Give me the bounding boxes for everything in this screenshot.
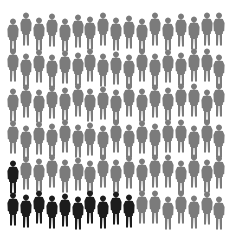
- person-icon: [212, 196, 226, 230]
- person-icon: [6, 120, 20, 154]
- person-icon: [135, 88, 149, 122]
- person-icon: [200, 191, 214, 225]
- person-icon-highlighted: [96, 195, 110, 229]
- person-icon: [83, 48, 97, 82]
- person-icon: [45, 54, 59, 88]
- person-icon: [200, 48, 214, 82]
- person-icon: [109, 159, 123, 193]
- person-icon: [32, 89, 46, 123]
- person-icon: [58, 87, 72, 121]
- person-icon: [122, 124, 136, 158]
- person-icon: [71, 124, 85, 158]
- person-icon: [45, 85, 59, 119]
- person-icon: [6, 48, 20, 82]
- person-icon: [6, 88, 20, 122]
- person-icon: [161, 196, 175, 230]
- person-icon: [109, 51, 123, 85]
- person-icon: [19, 125, 33, 159]
- person-icon: [135, 48, 149, 82]
- person-icon: [83, 16, 97, 50]
- person-icon: [135, 120, 149, 154]
- person-icon: [32, 158, 46, 192]
- person-icon: [58, 159, 72, 193]
- person-icon: [58, 119, 72, 153]
- person-icon: [19, 156, 33, 190]
- person-icon: [109, 119, 123, 153]
- person-icon-highlighted: [6, 192, 20, 226]
- person-icon: [212, 83, 226, 117]
- person-icon: [45, 154, 59, 188]
- person-icon: [187, 154, 201, 188]
- person-icon: [19, 84, 33, 118]
- person-icon: [71, 83, 85, 117]
- person-icon: [187, 195, 201, 229]
- person-icon: [71, 157, 85, 191]
- person-icon: [161, 49, 175, 83]
- person-icon: [212, 124, 226, 158]
- person-icon: [96, 12, 110, 46]
- person-icon: [148, 12, 162, 46]
- person-icon-highlighted: [122, 194, 136, 228]
- person-icon: [212, 155, 226, 189]
- person-icon: [174, 52, 188, 86]
- person-icon: [148, 190, 162, 224]
- person-icon: [187, 83, 201, 117]
- person-icon: [122, 155, 136, 189]
- person-icon-highlighted: [45, 195, 59, 229]
- person-icon: [58, 18, 72, 52]
- person-icon: [200, 12, 214, 46]
- person-icon: [174, 13, 188, 47]
- person-icon: [161, 87, 175, 121]
- person-icon-highlighted: [109, 191, 123, 225]
- person-icon: [161, 119, 175, 153]
- person-icon: [96, 154, 110, 188]
- person-icon: [187, 16, 201, 50]
- person-icon: [122, 15, 136, 49]
- person-icon-highlighted: [32, 190, 46, 224]
- person-icon: [19, 12, 33, 46]
- person-icon: [212, 12, 226, 46]
- person-icon: [45, 13, 59, 47]
- person-icon: [174, 83, 188, 117]
- person-icon: [200, 159, 214, 193]
- person-icon: [19, 53, 33, 87]
- person-icon: [96, 86, 110, 120]
- person-icon: [148, 123, 162, 157]
- person-icon: [32, 121, 46, 155]
- person-icon: [71, 52, 85, 86]
- icon-array-chart: [0, 0, 234, 242]
- person-icon: [148, 154, 162, 188]
- person-icon: [174, 119, 188, 153]
- person-icon: [161, 154, 175, 188]
- person-icon: [32, 49, 46, 83]
- person-icon-highlighted: [71, 196, 85, 230]
- person-icon-highlighted: [6, 160, 20, 194]
- person-icon: [45, 123, 59, 157]
- person-icon: [148, 84, 162, 118]
- person-icon: [96, 53, 110, 87]
- person-icon-highlighted: [83, 190, 97, 224]
- person-icon-highlighted: [58, 193, 72, 227]
- person-icon: [71, 14, 85, 48]
- person-icon-highlighted: [19, 194, 33, 228]
- person-icon: [32, 17, 46, 51]
- person-icon: [148, 53, 162, 87]
- person-icon: [174, 190, 188, 224]
- person-icon: [135, 190, 149, 224]
- person-icon: [109, 17, 123, 51]
- person-icon: [83, 88, 97, 122]
- person-icon: [135, 158, 149, 192]
- person-icon: [83, 122, 97, 156]
- person-icon: [187, 48, 201, 82]
- person-icon: [58, 50, 72, 84]
- person-icon: [122, 83, 136, 117]
- person-icon: [161, 17, 175, 51]
- person-icon: [200, 119, 214, 153]
